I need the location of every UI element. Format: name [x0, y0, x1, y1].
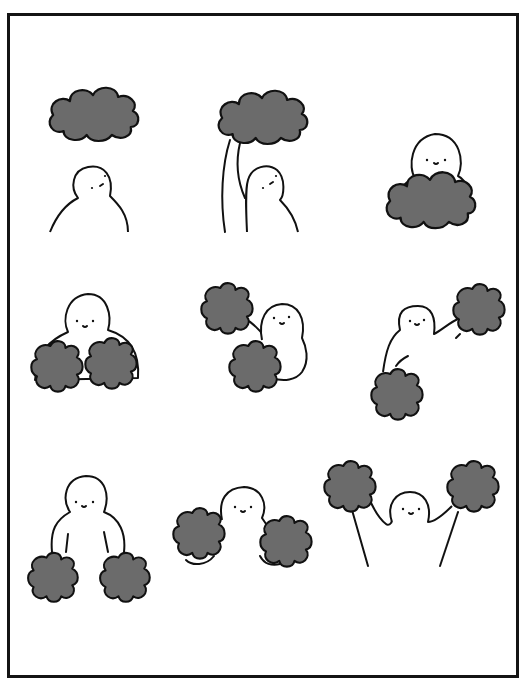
character-body — [390, 492, 452, 522]
panel-5 — [201, 283, 306, 391]
panel-1 — [50, 88, 139, 232]
pom-pom-icon — [28, 553, 78, 602]
character-body — [50, 167, 128, 232]
pom-pom-icon — [85, 338, 136, 388]
cloud-icon — [219, 91, 308, 144]
comic-illustration — [0, 0, 531, 688]
pom-pom-icon — [201, 283, 252, 333]
character-body — [383, 306, 460, 372]
pom-pom-icon — [324, 461, 375, 511]
panel-7 — [28, 476, 150, 602]
panel-4 — [31, 294, 138, 392]
pom-pom-icon — [173, 508, 224, 558]
pom-pom-icon — [453, 284, 504, 334]
left-arm — [352, 510, 368, 566]
panel-8 — [173, 487, 311, 567]
pom-pom-icon — [260, 516, 311, 566]
raised-arm — [222, 140, 230, 232]
cloud-icon — [50, 88, 139, 141]
pom-pom-icon — [100, 553, 150, 602]
pom-pom-icon — [229, 341, 280, 391]
character-body — [246, 166, 298, 232]
cloud-icon — [387, 172, 476, 228]
right-arm — [440, 512, 458, 566]
panel-3 — [387, 134, 476, 228]
character-body — [52, 476, 125, 552]
pom-pom-icon — [447, 461, 498, 511]
pom-pom-icon — [371, 369, 422, 419]
panel-6 — [371, 284, 504, 419]
pom-pom-icon — [31, 341, 82, 391]
comic-page — [0, 0, 531, 688]
panel-9 — [324, 461, 498, 566]
panel-2 — [219, 91, 308, 232]
